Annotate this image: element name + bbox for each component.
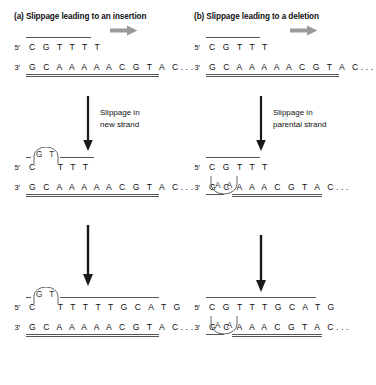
strand-row-parental: 3′ G C A A A A A C G T A C... [180,60,360,80]
parental-strand-underline-outer [26,74,159,75]
process-caption-a-line2: new strand [100,120,139,131]
new-strand-sequence-left: C [29,300,38,315]
five-prime-label: 5′ [0,300,25,315]
new-strand-sequence-left: C [29,160,38,175]
new-strand-overline [206,297,316,298]
new-strand-sequence: C G T T T T [29,40,102,55]
looped-out-bases-a3: G T [36,290,57,300]
slippage-step-arrow-b [255,96,267,152]
parental-strand-sequence: G C A A A A A C G T A C... [29,180,196,195]
five-prime-label: 5′ [0,40,25,55]
panel-a-stage-2: G T 5′ C T T T 3′ G C A A A A A C G T A … [0,160,180,200]
parental-strand-sequence: G C A A A A A C G T A C... [29,320,196,335]
new-strand-sequence-right: T T T [58,160,91,175]
three-prime-label: 3′ [180,60,205,75]
new-strand-overline-left [26,297,31,298]
parental-strand-underline-outer [26,194,159,195]
slippage-step-arrow-a [82,96,94,152]
process-caption-a-line1: Slippage in [100,108,140,119]
looped-out-bases-a2: G T [36,150,57,160]
panel-a-stage-3: G T 5′ C T T T T T G C A T G 3′ G C A A … [0,300,180,340]
parental-strand-underline-inner [26,76,159,77]
parental-strand-underline-inner [26,196,159,197]
new-strand-overline [206,157,260,158]
panel-a-stage-1: 5′ C G T T T T 3′ G C A A A A A C G T A … [0,40,180,80]
strand-row-parental: 3′ G C A A A A A C G T A C... [0,60,180,80]
new-strand-sequence: C G T T T [209,40,270,55]
continued-replication-arrow-a [82,225,94,287]
strand-row-new: 5′ C G T T T G C A T G [180,300,360,320]
three-prime-label: 3′ [180,180,205,195]
three-prime-label: 3′ [180,320,205,335]
panel-b-stage-3: 5′ C G T T T G C A T G 3′ G C A A A C G … [180,300,360,340]
three-prime-label: 3′ [0,180,25,195]
looped-out-bases-b2: A A [215,181,235,191]
new-strand-overline-left [26,157,31,158]
new-strand-overline-right [60,157,94,158]
strand-row-new: 5′ C T T T [0,160,180,180]
replication-direction-arrow-b [290,25,318,36]
panel-slippage-insertion: (a) Slippage leading to an insertion 5′ … [0,0,180,385]
panel-b-stage-1: 5′ C G T T T 3′ G C A A A A A C G T A C.… [180,40,360,80]
strand-row-new: 5′ C G T T T [180,40,360,60]
looped-out-bases-b3: A A [215,321,235,331]
new-strand-sequence: C G T T T [209,160,270,175]
five-prime-label: 5′ [180,40,205,55]
parental-strand-underline-right-inner [232,336,322,337]
parental-strand-underline-outer [206,74,339,75]
strand-row-parental: 3′ G C A A A C G T A C... [180,180,360,200]
parental-strand-sequence: G C A A A A A C G T A C... [29,60,196,75]
parental-strand-underline-inner [26,336,159,337]
panel-b-title: (b) Slippage leading to a deletion [194,12,319,21]
process-caption-b-line1: Slippage in [273,108,313,119]
strand-row-new: 5′ C G T T T T [0,40,180,60]
strand-row-parental: 3′ G C A A A A A C G T A C... [0,320,180,340]
three-prime-label: 3′ [0,320,25,335]
strand-row-parental: 3′ G C A A A A A C G T A C... [0,180,180,200]
new-strand-overline [206,37,260,38]
process-caption-b-line2: parental strand [273,120,326,131]
parental-strand-underline-outer [26,334,159,335]
continued-replication-arrow-b [255,235,267,293]
new-strand-overline [26,37,91,38]
parental-strand-underline-right [232,334,322,335]
parental-strand-underline-inner [206,76,339,77]
panel-b-stage-2: 5′ C G T T T 3′ G C A A A C G T A C... A… [180,160,360,200]
parental-strand-underline-right-inner [232,196,322,197]
strand-row-new: 5′ C T T T T T G C A T G [0,300,180,320]
parental-strand-underline-right [232,194,322,195]
parental-strand-sequence: G C A A A A A C G T A C... [209,60,376,75]
three-prime-label: 3′ [0,60,25,75]
five-prime-label: 5′ [180,160,205,175]
replication-direction-arrow-a [110,25,138,36]
panel-slippage-deletion: (b) Slippage leading to a deletion 5′ C … [180,0,360,385]
process-step-b: Slippage in parental strand [180,96,360,152]
five-prime-label: 5′ [180,300,205,315]
strand-row-new: 5′ C G T T T [180,160,360,180]
process-step-a: Slippage in new strand [0,96,180,152]
new-strand-overline-right [60,297,159,298]
panel-a-title: (a) Slippage leading to an insertion [14,12,146,21]
new-strand-sequence-right: T T T T T G C A T G [58,300,183,315]
new-strand-sequence: C G T T T G C A T G [209,300,337,315]
five-prime-label: 5′ [0,160,25,175]
strand-row-parental: 3′ G C A A A C G T A C... [180,320,360,340]
